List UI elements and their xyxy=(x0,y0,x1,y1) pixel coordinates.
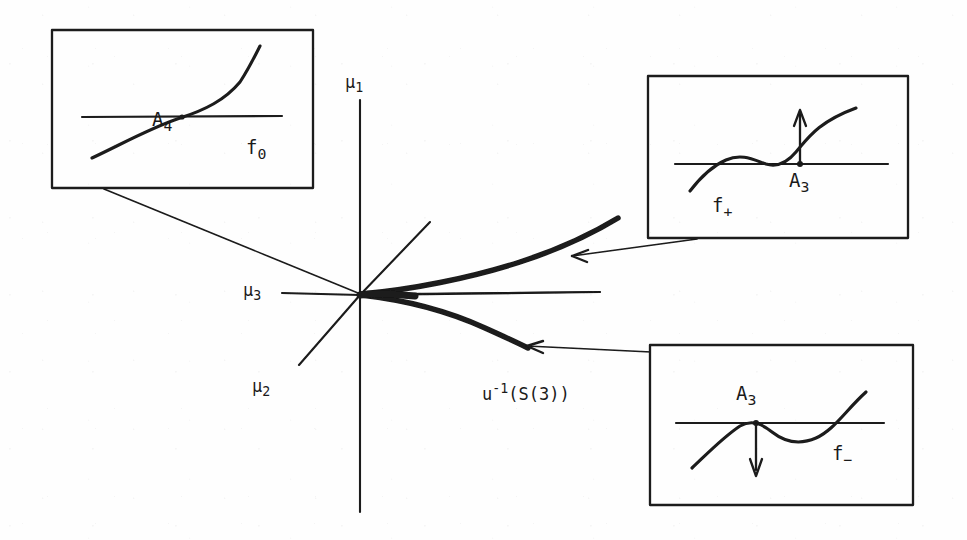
figure-canvas: μ1 μ2 μ3 u-1(S(3)) A4 f0 A3 f+ A3 f− xyxy=(0,0,967,540)
inset-label-f-minus: f− xyxy=(832,444,852,468)
origin-node xyxy=(360,294,415,296)
inset-label-f0: f0 xyxy=(246,138,266,162)
bifurcation-figure xyxy=(0,0,967,540)
axis-label-mu3: μ3 xyxy=(243,282,261,303)
leader-f-zero xyxy=(104,189,358,293)
inset-label-f-plus: f+ xyxy=(712,196,732,220)
upper-branch xyxy=(361,218,618,294)
f-zero-inset xyxy=(52,30,313,188)
leader-f-plus xyxy=(572,239,697,262)
lower-branch xyxy=(361,295,528,348)
f-zero-point xyxy=(179,114,184,119)
leader-f-minus xyxy=(527,341,651,353)
point-label-a4: A4 xyxy=(152,110,172,134)
point-label-a3-minus: A3 xyxy=(736,384,756,408)
axis-label-mu1: μ1 xyxy=(345,74,363,95)
f-plus-inset xyxy=(648,76,908,238)
preimage-curve-label: u-1(S(3)) xyxy=(482,382,570,403)
point-label-a3-plus: A3 xyxy=(789,171,809,195)
f-minus-inset xyxy=(650,345,913,505)
axis-label-mu2: μ2 xyxy=(252,378,270,399)
